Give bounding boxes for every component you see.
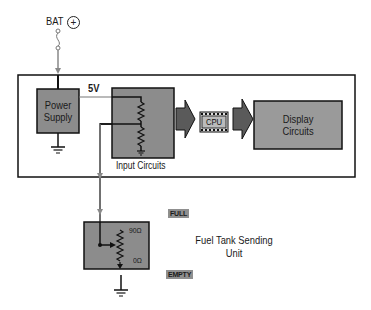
display-circuits-label: Display Circuits xyxy=(261,101,336,149)
input-circuits-label: Input Circuits xyxy=(116,160,166,171)
circuit-diagram xyxy=(0,0,371,310)
positive-symbol: + xyxy=(71,17,77,28)
input-circuits-block xyxy=(112,88,174,158)
fuse-icon xyxy=(56,29,60,50)
sending-unit-title-line1: Fuel Tank Sending xyxy=(192,234,277,247)
arrow-right-icon xyxy=(176,100,195,138)
display-line1: Display xyxy=(283,113,314,125)
power-supply-label: Power Supply xyxy=(40,89,76,133)
battery-positive-icon: + xyxy=(67,16,80,29)
sending-unit-title-line2: Unit xyxy=(192,247,277,260)
arrow-down-icon xyxy=(55,68,61,74)
battery-label: BAT xyxy=(46,15,63,27)
arrow-right-icon xyxy=(233,99,253,139)
empty-tag: EMPTY xyxy=(166,270,193,279)
cpu-label: CPU xyxy=(204,116,224,128)
battery-text: BAT xyxy=(46,15,63,27)
sending-unit-title: Fuel Tank Sending Unit xyxy=(192,234,277,260)
power-supply-line2: Supply xyxy=(44,111,73,123)
power-supply-line1: Power xyxy=(45,99,72,111)
resistance-max-label: 90Ω xyxy=(129,226,142,235)
5v-label: 5V xyxy=(88,82,99,94)
ground-icon xyxy=(51,133,65,153)
full-tag: FULL xyxy=(168,209,189,218)
display-line2: Circuits xyxy=(282,125,313,137)
resistance-min-label: 0Ω xyxy=(133,256,142,265)
ground-icon xyxy=(114,275,128,296)
